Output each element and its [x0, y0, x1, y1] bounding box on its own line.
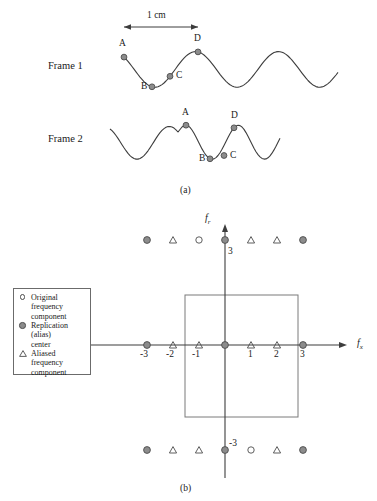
legend-label-original: Original frequency component — [31, 293, 67, 321]
marker-replication-center — [300, 447, 307, 454]
passband-rectangle — [185, 295, 298, 417]
label-d-frame2: D — [231, 110, 238, 120]
scale-bar-label: 1 cm — [147, 10, 166, 20]
triangle-icon — [18, 349, 27, 357]
point-marker-a-frame2 — [183, 122, 189, 128]
frame1-label: Frame 1 — [48, 60, 83, 71]
legend-label-aliased: Aliased frequency component — [31, 349, 67, 377]
legend-label-replication: Replication (alias) center — [31, 321, 68, 349]
marker-aliased-component — [169, 447, 176, 453]
x-tick-minus1: -1 — [192, 349, 200, 359]
legend-item-replication: Replication (alias) center — [18, 321, 68, 349]
x-tick-minus2: -2 — [166, 349, 174, 359]
y-tick-minus3: -3 — [229, 438, 237, 448]
point-marker-c-frame1 — [167, 73, 173, 79]
label-a-frame2: A — [182, 107, 189, 117]
filled-circle-icon — [18, 321, 27, 329]
label-c-frame2: C — [230, 150, 236, 160]
x-tick-2: 2 — [274, 349, 279, 359]
x-tick-1: 1 — [248, 349, 253, 359]
marker-replication-center — [222, 342, 229, 349]
x-tick-3: 3 — [300, 349, 305, 359]
marker-replication-center — [144, 237, 151, 244]
label-b-frame2: B — [199, 153, 205, 163]
marker-aliased-component — [247, 237, 254, 243]
label-d-frame1: D — [194, 33, 201, 43]
y-axis-label: fr — [205, 212, 211, 226]
frame2-label: Frame 2 — [48, 133, 83, 144]
panel-b-caption: (b) — [180, 483, 191, 493]
point-marker-d-frame1 — [195, 49, 201, 55]
frame1-waveform — [121, 49, 338, 90]
panel-a-caption: (a) — [180, 185, 191, 195]
x-axis-arrowhead — [339, 342, 347, 348]
marker-replication-center — [144, 447, 151, 454]
marker-replication-center — [144, 342, 151, 349]
label-c-frame1: C — [176, 70, 182, 80]
marker-aliased-component — [195, 447, 202, 453]
point-marker-a-frame1 — [121, 54, 127, 60]
marker-replication-center — [300, 342, 307, 349]
marker-replication-center — [300, 237, 307, 244]
y-axis-arrowhead — [222, 224, 228, 232]
label-a-frame1: A — [119, 38, 126, 48]
point-marker-b-frame1 — [149, 84, 155, 90]
marker-replication-center — [222, 447, 229, 454]
x-axis-label: fx — [357, 337, 363, 351]
legend: Original frequency component Replication… — [13, 288, 91, 375]
marker-replication-center — [222, 237, 229, 244]
marker-aliased-component — [169, 237, 176, 243]
frame2-waveform — [110, 122, 280, 161]
legend-item-aliased: Aliased frequency component — [18, 349, 67, 377]
label-b-frame1: B — [141, 81, 147, 91]
y-tick-3: 3 — [228, 246, 233, 256]
marker-original-component — [196, 237, 202, 243]
open-circle-icon — [18, 293, 27, 300]
marker-aliased-component — [273, 447, 280, 453]
figure-container: 1 cm Frame 1 Frame 2 A B C D A B C D (a) — [0, 0, 377, 501]
marker-aliased-component — [273, 237, 280, 243]
x-tick-minus3: -3 — [140, 349, 148, 359]
panel-a-waveforms — [0, 0, 377, 205]
point-marker-b-frame2 — [207, 156, 213, 162]
point-marker-d-frame2 — [231, 125, 237, 131]
point-marker-c-frame2 — [221, 153, 227, 159]
legend-item-original: Original frequency component — [18, 293, 67, 321]
marker-original-component — [248, 447, 254, 453]
scale-bar — [124, 24, 198, 30]
